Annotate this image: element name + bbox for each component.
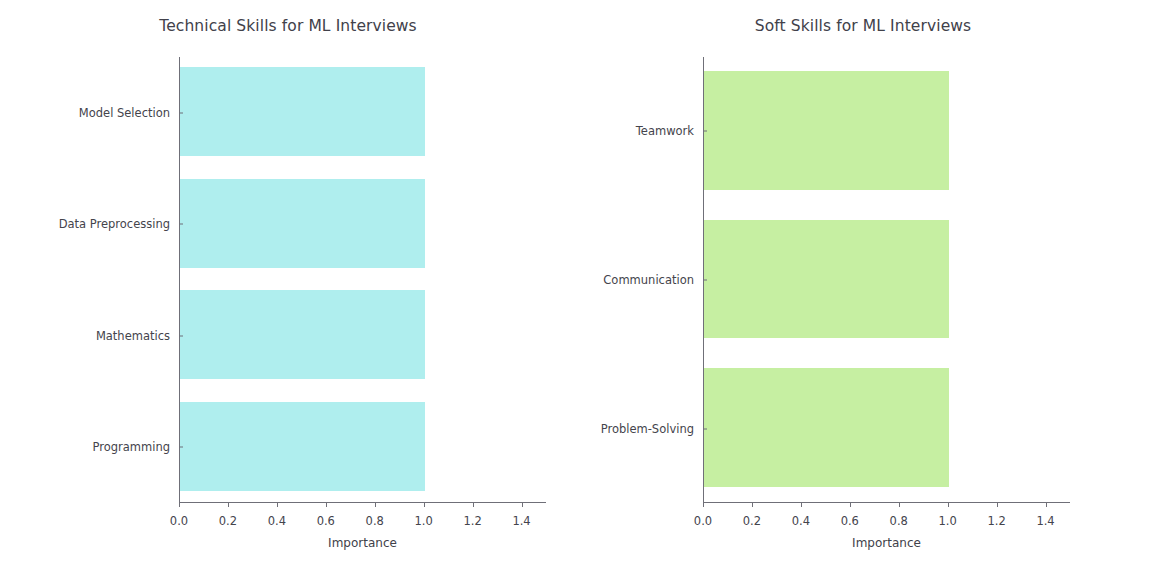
y-tick-mark: [703, 131, 707, 132]
bar-slot: [704, 56, 1070, 205]
x-tick-label: 1.0: [415, 514, 433, 528]
x-tick-mark: [375, 503, 376, 507]
x-tick-mark: [326, 503, 327, 507]
bar-group-technical-skills: [180, 57, 546, 502]
y-tick-label-technical: Mathematics: [96, 329, 179, 343]
bar[interactable]: [704, 368, 949, 487]
x-tick-label: 1.0: [939, 514, 957, 528]
chart-panel-soft-skills: Soft Skills for ML Interviews Problem-So…: [575, 0, 1150, 581]
bar[interactable]: [180, 67, 425, 156]
x-tick-label: 0.2: [743, 514, 761, 528]
x-tick-mark: [850, 503, 851, 507]
x-tick-label: 0.0: [694, 514, 712, 528]
x-tick-mark: [703, 503, 704, 507]
x-tick-mark: [179, 503, 180, 507]
x-tick-label: 0.6: [317, 514, 335, 528]
x-axis-label-soft-skills: Importance: [703, 536, 1070, 550]
x-tick-mark: [948, 503, 949, 507]
bar-group-soft-skills: [704, 57, 1070, 502]
x-tick-label: 0.0: [170, 514, 188, 528]
x-tick-mark: [997, 503, 998, 507]
bar[interactable]: [180, 179, 425, 268]
x-tick-mark: [277, 503, 278, 507]
y-tick-mark: [179, 335, 183, 336]
y-tick-mark: [703, 428, 707, 429]
bar-slot: [180, 56, 546, 168]
bar-slot: [180, 391, 546, 503]
chart-panel-technical-skills: Technical Skills for ML Interviews Progr…: [0, 0, 575, 581]
chart-title-soft-skills: Soft Skills for ML Interviews: [663, 17, 1063, 35]
x-tick-label: 1.4: [512, 514, 530, 528]
y-tick-label-technical: Programming: [92, 440, 179, 454]
y-tick-label-technical: Data Preprocessing: [59, 217, 179, 231]
axes-technical-skills: ProgrammingMathematicsData Preprocessing…: [179, 57, 546, 503]
x-tick-mark: [1046, 503, 1047, 507]
x-axis-spine: [703, 502, 1070, 503]
x-tick-mark: [424, 503, 425, 507]
x-tick-label: 1.2: [463, 514, 481, 528]
x-tick-label: 0.8: [366, 514, 384, 528]
y-tick-label-technical: Model Selection: [79, 106, 179, 120]
chart-title-technical-skills: Technical Skills for ML Interviews: [88, 17, 488, 35]
y-tick-mark: [179, 112, 183, 113]
bar[interactable]: [704, 220, 949, 339]
x-tick-mark: [228, 503, 229, 507]
y-tick-mark: [179, 447, 183, 448]
x-tick-label: 0.8: [890, 514, 908, 528]
bar[interactable]: [180, 290, 425, 379]
y-tick-label-soft: Communication: [603, 273, 703, 287]
x-tick-mark: [473, 503, 474, 507]
bar-slot: [180, 168, 546, 280]
x-tick-label: 1.4: [1036, 514, 1054, 528]
y-tick-mark: [703, 280, 707, 281]
bar[interactable]: [180, 402, 425, 491]
x-tick-mark: [899, 503, 900, 507]
x-tick-label: 0.2: [219, 514, 237, 528]
x-tick-label: 0.6: [841, 514, 859, 528]
x-tick-mark: [801, 503, 802, 507]
figure: Technical Skills for ML Interviews Progr…: [0, 0, 1150, 581]
axes-soft-skills: Problem-SolvingCommunicationTeamwork 0.0…: [703, 57, 1070, 503]
bar-slot: [180, 279, 546, 391]
bar-slot: [704, 205, 1070, 354]
y-tick-label-soft: Problem-Solving: [601, 422, 703, 436]
x-axis-label-technical-skills: Importance: [179, 536, 546, 550]
x-tick-label: 1.2: [987, 514, 1005, 528]
bar[interactable]: [704, 71, 949, 190]
x-tick-mark: [752, 503, 753, 507]
x-tick-label: 0.4: [792, 514, 810, 528]
bar-slot: [704, 353, 1070, 502]
x-tick-label: 0.4: [268, 514, 286, 528]
y-tick-label-soft: Teamwork: [636, 124, 703, 138]
y-tick-mark: [179, 224, 183, 225]
x-tick-mark: [522, 503, 523, 507]
x-axis-spine: [179, 502, 546, 503]
